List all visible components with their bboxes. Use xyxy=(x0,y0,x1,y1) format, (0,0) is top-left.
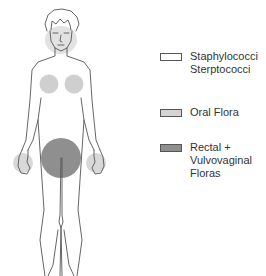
legend-label: Oral Flora xyxy=(190,106,239,119)
legend-swatch-dark-gray xyxy=(160,144,182,152)
legend-label-line: Vulvovaginal xyxy=(190,154,252,167)
legend-label: Rectal + Vulvovaginal Floras xyxy=(190,141,252,180)
legend-label-line: Floras xyxy=(190,167,252,180)
chest-left-region xyxy=(40,75,59,94)
human-body-figure xyxy=(0,0,135,276)
legend-label: Staphylococci Sterptococci xyxy=(190,50,258,76)
legend-label-line: Sterptococci xyxy=(190,63,258,76)
legend-label-line: Staphylococci xyxy=(190,50,258,63)
chest-right-region xyxy=(65,75,84,94)
legend-item-oral-flora: Oral Flora xyxy=(160,106,239,119)
hand-left-region xyxy=(13,153,33,173)
face-region xyxy=(45,26,77,54)
legend-item-rectal-vulvovaginal: Rectal + Vulvovaginal Floras xyxy=(160,141,252,180)
legend-swatch-light-gray xyxy=(160,109,182,117)
legend-label-line: Rectal + xyxy=(190,141,252,154)
legend-label-line: Oral Flora xyxy=(190,106,239,119)
legend-item-staphylococci: Staphylococci Sterptococci xyxy=(160,50,258,76)
legend-swatch-white xyxy=(160,53,182,61)
